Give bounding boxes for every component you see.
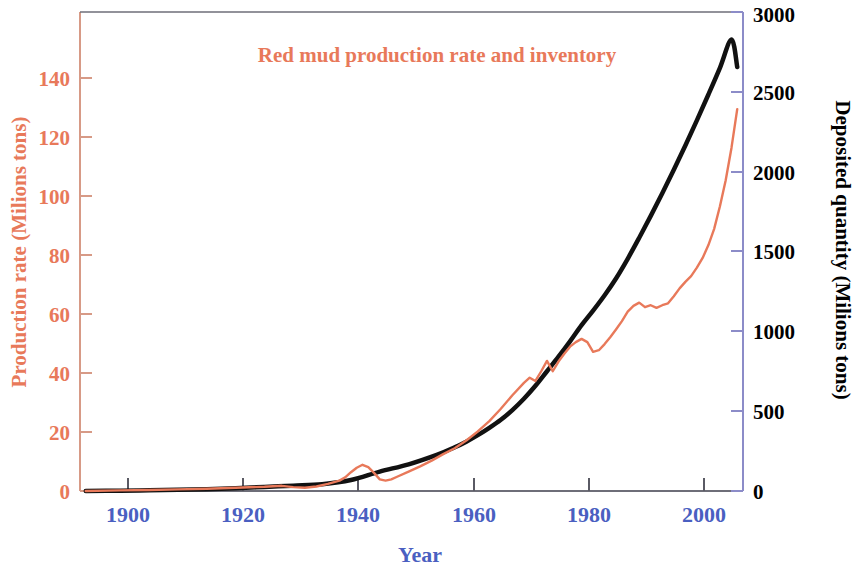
x-tick-label-1960: 1960 — [452, 502, 496, 527]
chart-figure: Red mud production rate and inventory 0 … — [0, 0, 858, 573]
right-tick-label-2000: 2000 — [753, 161, 795, 185]
y-axis-label: Production rate (Milions tons) — [7, 117, 31, 388]
chart-title: Red mud production rate and inventory — [258, 43, 617, 67]
right-tick-label-1500: 1500 — [753, 240, 795, 264]
left-tick-label-20: 20 — [49, 421, 70, 445]
left-tick-label-120: 120 — [39, 126, 71, 150]
left-tick-label-60: 60 — [49, 303, 70, 327]
x-tick-label-1900: 1900 — [106, 502, 150, 527]
left-tick-label-80: 80 — [49, 244, 70, 268]
right-tick-labels: 0 500 1000 1500 2000 2500 3000 — [753, 3, 795, 504]
right-tick-label-2500: 2500 — [753, 81, 795, 105]
chart-svg: Red mud production rate and inventory 0 … — [0, 0, 858, 573]
x-tick-label-1920: 1920 — [221, 502, 265, 527]
right-tick-label-1000: 1000 — [753, 320, 795, 344]
x-tick-label-2000: 2000 — [682, 502, 726, 527]
plot-background — [80, 12, 743, 491]
x-tick-label-1980: 1980 — [567, 502, 611, 527]
x-tick-labels: 1900 1920 1940 1960 1980 2000 — [106, 502, 726, 527]
left-tick-labels: 0 20 40 60 80 100 120 140 — [39, 67, 71, 504]
y2-axis-label: Deposited quantity (Milions tons) — [831, 100, 855, 399]
right-tick-label-500: 500 — [753, 400, 785, 424]
x-tick-label-1940: 1940 — [336, 502, 380, 527]
left-tick-label-100: 100 — [39, 185, 71, 209]
x-axis-label: Year — [398, 542, 442, 567]
right-tick-label-3000: 3000 — [753, 3, 795, 27]
left-tick-label-40: 40 — [49, 362, 70, 386]
right-tick-label-0: 0 — [753, 480, 764, 504]
left-tick-label-140: 140 — [39, 67, 71, 91]
left-tick-label-0: 0 — [60, 480, 71, 504]
